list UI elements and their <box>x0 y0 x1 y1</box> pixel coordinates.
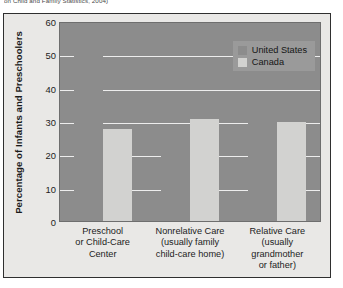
chart-legend: United States Canada <box>233 41 315 71</box>
x-label-preschool: Preschool or Child-Care Center <box>59 226 146 272</box>
x-axis-labels: Preschool or Child-Care Center Nonrelati… <box>59 226 321 272</box>
y-axis-ticks: 60 50 40 30 20 10 0 <box>30 14 56 277</box>
y-tick-label: 0 <box>30 217 56 228</box>
y-tick-label: 40 <box>30 83 56 94</box>
y-tick-label: 20 <box>30 150 56 161</box>
bar-united-states <box>74 23 103 221</box>
y-tick-label: 60 <box>30 17 56 28</box>
x-label-line: or father) <box>235 260 320 271</box>
y-axis-title: Percentage of Infants and Preschoolers <box>13 23 24 223</box>
plot-area: United States Canada <box>59 22 321 222</box>
y-tick-label: 10 <box>30 183 56 194</box>
x-label-line: child-care home) <box>147 249 232 260</box>
x-label-line: Relative Care <box>235 226 320 237</box>
x-label-line: Preschool <box>60 226 145 237</box>
y-tick-label: 30 <box>30 117 56 128</box>
x-label-line: (usually <box>235 237 320 248</box>
bar-united-states <box>161 139 190 222</box>
legend-swatch-canada <box>238 58 247 67</box>
x-label-line: Center <box>60 249 145 260</box>
x-label-relative-care: Relative Care (usually grandmother or fa… <box>234 226 321 272</box>
x-label-line: (usually family <box>147 237 232 248</box>
legend-label-united-states: United States <box>252 45 307 55</box>
legend-item-united-states: United States <box>238 45 307 55</box>
figure-panel: Percentage of Infants and Preschoolers 6… <box>3 13 331 278</box>
bar-canada <box>103 129 132 221</box>
bar-canada <box>190 119 219 221</box>
x-label-line: or Child-Care <box>60 237 145 248</box>
bar-united-states <box>248 122 277 221</box>
x-label-line: Nonrelative Care <box>147 226 232 237</box>
legend-swatch-united-states <box>238 46 247 55</box>
legend-item-canada: Canada <box>238 57 307 67</box>
bar-group <box>147 23 234 221</box>
x-label-line: grandmother <box>235 249 320 260</box>
x-label-nonrelative-care: Nonrelative Care (usually family child-c… <box>146 226 233 272</box>
legend-label-canada: Canada <box>252 57 284 67</box>
figure-caption: on Child and Family Statistics, 2004) <box>4 0 334 5</box>
y-tick-label: 50 <box>30 50 56 61</box>
bar-canada <box>277 122 306 221</box>
bar-group <box>60 23 147 221</box>
